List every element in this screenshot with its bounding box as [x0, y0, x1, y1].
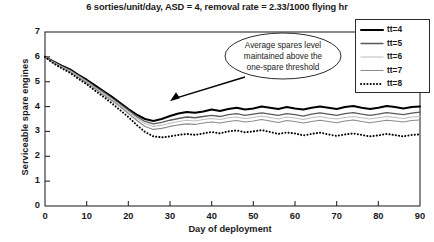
legend-label-tt8: tt=8: [387, 78, 402, 88]
annotation-callout: Average spares levelmaintained above the…: [170, 33, 341, 101]
y-tick-label: 3: [20, 125, 40, 135]
annotation-text-line: Average spares level: [245, 41, 321, 50]
x-tick-label: 30: [155, 211, 185, 221]
legend-label-tt6: tt=6: [387, 51, 402, 61]
x-tick-label: 50: [238, 211, 268, 221]
y-tick-label: 7: [20, 26, 40, 36]
y-tick-label: 5: [20, 76, 40, 86]
legend-label-tt7: tt=7: [387, 65, 402, 75]
x-tick-label: 80: [363, 211, 393, 221]
legend-label-tt4: tt=4: [387, 24, 402, 34]
x-tick-label: 20: [113, 211, 143, 221]
x-tick-label: 90: [405, 211, 434, 221]
y-tick-label: 0: [20, 200, 40, 210]
y-tick-label: 1: [20, 175, 40, 185]
chart-figure: 6 sorties/unit/day, ASD = 4, removal rat…: [0, 0, 434, 242]
y-tick-label: 4: [20, 101, 40, 111]
x-tick-label: 40: [197, 211, 227, 221]
legend: tt=4tt=5tt=6tt=7tt=8: [355, 19, 430, 93]
x-tick-label: 10: [72, 211, 102, 221]
y-tick-label: 2: [20, 150, 40, 160]
annotation-text-line: maintained above the: [244, 52, 323, 61]
annotation-text-line: one-spare threshold: [247, 63, 320, 72]
x-tick-label: 60: [280, 211, 310, 221]
legend-label-tt5: tt=5: [387, 38, 402, 48]
y-tick-label: 6: [20, 51, 40, 61]
x-tick-label: 70: [322, 211, 352, 221]
x-tick-label: 0: [30, 211, 60, 221]
